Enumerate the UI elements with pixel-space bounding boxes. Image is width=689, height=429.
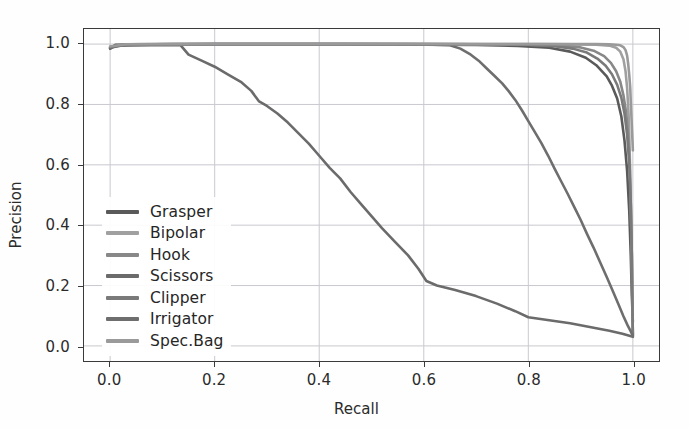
y-tick-label: 0.0: [0, 338, 70, 356]
legend-swatch-icon: [106, 231, 139, 235]
x-tick-mark: [109, 362, 110, 367]
y-tick-label: 0.8: [0, 95, 70, 113]
x-tick-mark: [319, 362, 320, 367]
legend-item-irrigator[interactable]: Irrigator: [106, 309, 223, 331]
legend-item-hook[interactable]: Hook: [106, 244, 223, 266]
legend-swatch-icon: [106, 274, 139, 278]
legend-item-label: Scissors: [150, 267, 214, 285]
precision-recall-figure: Precision 0.00.20.40.60.81.0 0.00.20.40.…: [0, 0, 689, 429]
legend: GrasperBipolarHookScissorsClipperIrrigat…: [102, 197, 231, 356]
legend-item-grasper[interactable]: Grasper: [106, 201, 223, 223]
x-tick-mark: [214, 362, 215, 367]
legend-item-label: Bipolar: [150, 224, 205, 242]
legend-item-label: Clipper: [150, 289, 206, 307]
x-tick-label: 0.6: [412, 371, 436, 389]
legend-item-scissors[interactable]: Scissors: [106, 266, 223, 288]
legend-item-spec-bag[interactable]: Spec.Bag: [106, 330, 223, 352]
y-tick-label: 0.2: [0, 277, 70, 295]
legend-item-label: Grasper: [150, 203, 212, 221]
y-tick-label: 1.0: [0, 34, 70, 52]
legend-item-label: Irrigator: [150, 310, 214, 328]
x-tick-mark: [424, 362, 425, 367]
series-line-spec-bag: [110, 44, 633, 150]
x-tick-mark: [634, 362, 635, 367]
legend-item-clipper[interactable]: Clipper: [106, 287, 223, 309]
x-tick-mark: [529, 362, 530, 367]
x-axis-title: Recall: [0, 400, 689, 418]
plot-area: GrasperBipolarHookScissorsClipperIrrigat…: [83, 28, 660, 362]
legend-item-label: Spec.Bag: [150, 332, 223, 350]
x-tick-label: 0.4: [307, 371, 331, 389]
x-tick-label: 1.0: [622, 371, 646, 389]
x-axis-title-text: Recall: [334, 400, 379, 418]
legend-item-label: Hook: [150, 246, 190, 264]
legend-swatch-icon: [106, 339, 139, 343]
x-tick-label: 0.2: [202, 371, 226, 389]
legend-swatch-icon: [106, 317, 139, 321]
legend-swatch-icon: [106, 296, 139, 300]
legend-swatch-icon: [106, 210, 139, 214]
legend-swatch-icon: [106, 253, 139, 257]
x-tick-label: 0.8: [517, 371, 541, 389]
x-tick-label: 0.0: [97, 371, 121, 389]
legend-item-bipolar[interactable]: Bipolar: [106, 223, 223, 245]
y-axis-title: Precision: [7, 155, 25, 275]
